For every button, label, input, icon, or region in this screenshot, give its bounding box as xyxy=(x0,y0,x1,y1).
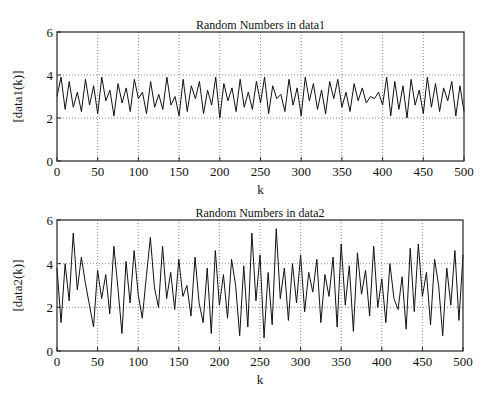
y-tick-label: 6 xyxy=(47,25,54,40)
x-tick-label: 100 xyxy=(128,354,148,369)
chart-figure: 0501001502002503003504004505000246Random… xyxy=(0,0,489,393)
x-tick-label: 50 xyxy=(91,354,104,369)
chart-title: Random Numbers in data2 xyxy=(196,206,325,220)
x-tick-label: 250 xyxy=(251,164,271,179)
y-tick-label: 0 xyxy=(47,344,54,359)
x-tick-label: 500 xyxy=(453,354,473,369)
x-tick-label: 200 xyxy=(210,354,230,369)
x-tick-label: 450 xyxy=(414,164,434,179)
x-tick-label: 250 xyxy=(250,354,270,369)
x-tick-label: 350 xyxy=(331,354,351,369)
x-tick-label: 300 xyxy=(291,164,311,179)
x-axis-label: k xyxy=(257,372,264,387)
chart-title: Random Numbers in data1 xyxy=(196,18,325,32)
x-tick-label: 0 xyxy=(54,164,61,179)
x-tick-label: 200 xyxy=(210,164,230,179)
x-tick-label: 100 xyxy=(129,164,149,179)
y-axis-label: [data2(k)] xyxy=(10,260,25,312)
y-tick-label: 0 xyxy=(47,154,54,169)
y-tick-label: 4 xyxy=(47,68,54,83)
y-tick-label: 6 xyxy=(47,213,54,228)
y-axis-label: [data1(k)] xyxy=(10,71,25,123)
x-axis-label: k xyxy=(257,182,264,197)
y-tick-label: 2 xyxy=(47,111,54,126)
x-tick-label: 500 xyxy=(454,164,474,179)
x-tick-label: 0 xyxy=(54,354,61,369)
axes-frame xyxy=(57,32,464,161)
plot-data1: 0501001502002503003504004505000246Random… xyxy=(10,18,474,197)
x-tick-label: 400 xyxy=(373,164,393,179)
x-tick-label: 150 xyxy=(169,164,189,179)
x-tick-label: 150 xyxy=(169,354,189,369)
x-tick-label: 300 xyxy=(291,354,311,369)
x-tick-label: 450 xyxy=(413,354,433,369)
y-tick-label: 2 xyxy=(47,300,54,315)
x-tick-label: 400 xyxy=(372,354,392,369)
x-tick-label: 50 xyxy=(91,164,104,179)
x-tick-label: 350 xyxy=(332,164,352,179)
plot-data2: 0501001502002503003504004505000246Random… xyxy=(10,206,473,387)
y-tick-label: 4 xyxy=(47,257,54,272)
